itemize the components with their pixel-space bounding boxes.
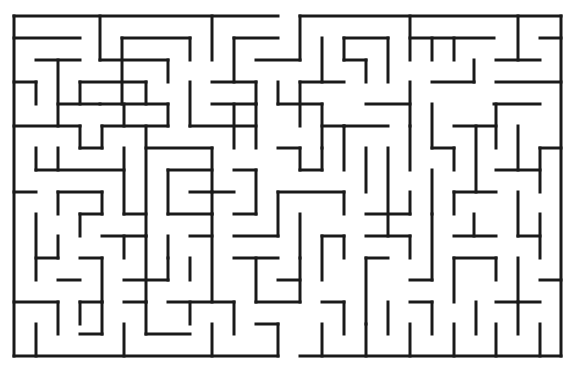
maze-entrance[interactable]: [280, 8, 298, 22]
maze-walls: [0, 0, 577, 368]
maze-exit[interactable]: [280, 350, 298, 364]
